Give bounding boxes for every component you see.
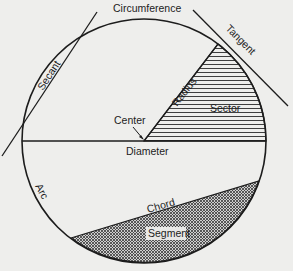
circle-diagram: Circumference Tangent Secant Radius Sect… xyxy=(0,0,293,271)
center-label: Center xyxy=(114,114,146,126)
tangent-label: Tangent xyxy=(224,22,259,57)
secant-label: Secant xyxy=(35,58,63,92)
segment-label: Segment xyxy=(148,227,190,239)
circumference-label: Circumference xyxy=(113,2,181,14)
sector-region xyxy=(144,44,266,141)
segment-region xyxy=(71,181,259,262)
sector-label: Sector xyxy=(210,102,241,114)
diameter-label: Diameter xyxy=(126,145,169,157)
